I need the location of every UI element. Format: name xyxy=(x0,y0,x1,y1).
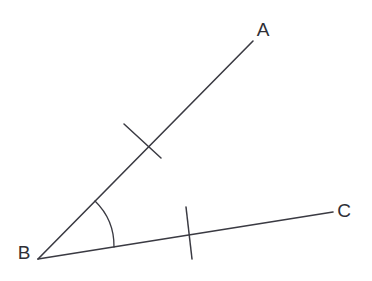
figure-background xyxy=(0,0,372,281)
vertex-label-c: C xyxy=(337,200,351,221)
geometry-canvas: A B C xyxy=(0,0,372,281)
vertex-label-a: A xyxy=(257,19,270,40)
vertex-label-b: B xyxy=(18,242,31,263)
geometry-figure: A B C xyxy=(0,0,372,281)
